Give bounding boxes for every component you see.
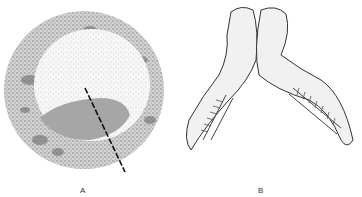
conjoined-embryos-illustration: [181, 0, 362, 197]
left-embryo: [186, 7, 257, 150]
panel-label-a: A: [80, 186, 85, 195]
cross-section-illustration: [0, 0, 181, 197]
panel-label-b: B: [258, 186, 263, 195]
right-embryo: [256, 8, 353, 145]
panel-a: A: [0, 0, 181, 197]
panel-b: B: [181, 0, 362, 197]
